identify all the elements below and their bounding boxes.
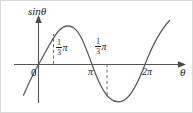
fraction-numerator: 1	[56, 39, 62, 47]
fraction-denominator: 3	[56, 48, 62, 56]
tick-label-two-pi: 2π	[142, 67, 152, 77]
y-axis	[35, 15, 41, 103]
fraction-stack: 1 3	[56, 39, 62, 56]
origin-label: 0	[31, 67, 37, 78]
sine-curve	[24, 21, 170, 102]
figure-border	[1, 1, 193, 113]
fraction-denominator: 3	[95, 47, 101, 55]
fraction-symbol-pi: π	[102, 42, 107, 52]
fraction-numerator: 1	[95, 38, 101, 46]
fraction-stack: 1 3	[95, 38, 101, 55]
annotation-second-third-pi: 1 3 π	[95, 38, 107, 55]
annotation-first-third-pi: 1 3 π	[56, 39, 68, 56]
fraction-symbol-pi: π	[63, 43, 68, 53]
x-axis-label: θ	[180, 67, 185, 78]
tick-label-pi: π	[88, 67, 93, 77]
y-axis-label: sinθ	[28, 6, 46, 17]
sine-curve-figure: sinθ θ 0 π 2π 1 3 π 1 3 π	[0, 0, 193, 113]
